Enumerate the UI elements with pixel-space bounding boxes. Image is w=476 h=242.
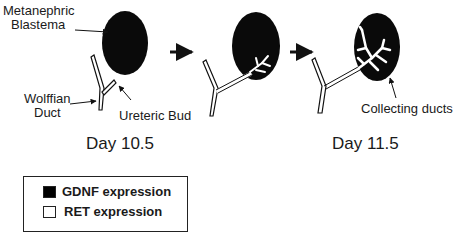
stage-2 [203,12,280,116]
metanephric-blastema-1 [102,11,148,75]
gdnf-swatch [43,186,56,198]
ret-swatch [43,206,56,218]
wolffian-duct-label: Wolffian Duct [24,92,71,120]
stage-label-day-11-5: Day 11.5 [332,134,399,154]
wolffian-duct-2 [203,60,218,116]
label-line: Wolffian [24,92,71,106]
stage-label-day-10-5: Day 10.5 [86,134,154,154]
legend-item-ret: RET expression [43,204,162,219]
metanephric-blastema-label: Metanephric Blastema [3,4,75,32]
collecting-ducts-label: Collecting ducts [361,102,453,116]
label-line: Metanephric [3,4,75,18]
legend-label: GDNF expression [62,184,171,199]
legend-label: RET expression [64,204,162,219]
ureteric-bud-label: Ureteric Bud [119,109,191,123]
stage-3-day-11-5 [312,13,400,113]
ureteric-bud-2 [216,72,252,93]
label-line: Duct [24,106,71,120]
stage-1-day-10-5 [70,11,148,110]
metanephric-blastema-3 [354,13,400,81]
legend: GDNF expression RET expression [23,176,188,232]
label-line: Blastema [3,18,75,32]
legend-item-gdnf: GDNF expression [43,184,171,199]
